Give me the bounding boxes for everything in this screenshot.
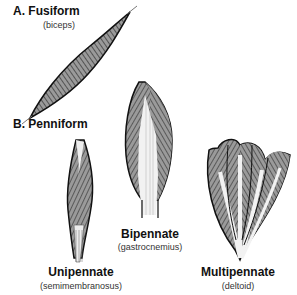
fusiform-muscle — [22, 6, 137, 124]
unipennate-label: Unipennate — [48, 266, 113, 279]
bipennate-muscle — [126, 82, 172, 218]
bipennate-label: Bipennate — [121, 228, 179, 241]
unipennate-muscle — [67, 140, 92, 262]
unipennate-example: (semimembranosus) — [40, 281, 122, 291]
bipennate-example: (gastrocnemius) — [118, 242, 183, 252]
penniform-label: B. Penniform — [13, 118, 88, 131]
multipennate-label: Multipennate — [201, 266, 275, 279]
multipennate-example: (deltoid) — [222, 281, 255, 291]
multipennate-muscle — [208, 139, 290, 260]
fusiform-example: (biceps) — [43, 20, 75, 30]
fusiform-label: A. Fusiform — [13, 5, 80, 18]
